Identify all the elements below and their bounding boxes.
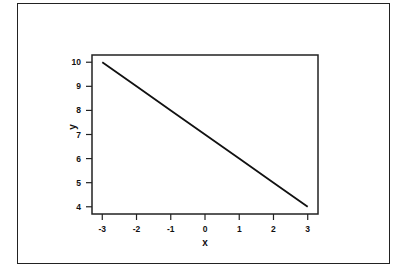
x-tick-label: -2 (133, 224, 141, 234)
series-line (102, 62, 307, 207)
x-tick-label: 1 (237, 224, 242, 234)
y-tick-label: 7 (76, 130, 81, 140)
x-tick-label: -1 (167, 224, 175, 234)
x-axis-label: x (202, 237, 208, 248)
x-axis-ticks: -3-2-10123 (98, 214, 310, 234)
y-tick-label: 4 (76, 202, 81, 212)
y-tick-label: 8 (76, 105, 81, 115)
line-chart: -3-2-10123 45678910 x y (0, 0, 396, 275)
y-axis-ticks: 45678910 (72, 57, 92, 212)
x-tick-label: -3 (98, 224, 106, 234)
x-tick-label: 0 (203, 224, 208, 234)
x-tick-label: 2 (271, 224, 276, 234)
y-tick-label: 9 (76, 81, 81, 91)
y-tick-label: 10 (72, 57, 82, 67)
x-tick-label: 3 (305, 224, 310, 234)
y-tick-label: 6 (76, 154, 81, 164)
y-axis-label: y (67, 124, 78, 130)
data-series (102, 62, 307, 207)
y-tick-label: 5 (76, 178, 81, 188)
